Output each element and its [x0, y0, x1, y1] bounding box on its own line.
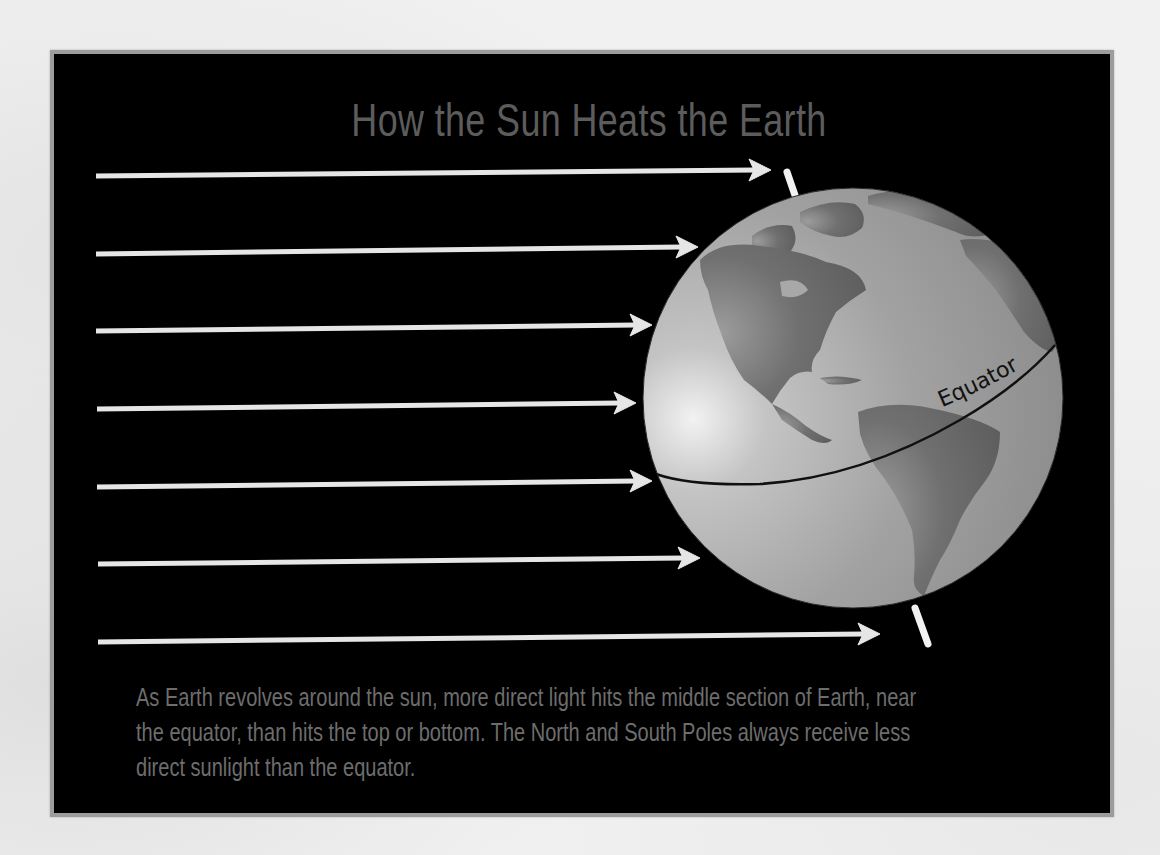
sun-ray-4 — [97, 392, 636, 414]
sun-ray-1 — [96, 159, 771, 181]
earth-globe: Equator — [643, 188, 1063, 608]
sun-ray-6 — [98, 547, 700, 569]
sun-ray-2 — [96, 236, 698, 258]
sun-ray-5 — [97, 470, 652, 492]
caption-line-2: the equator, than hits the top or bottom… — [136, 715, 998, 750]
earth-axis-south — [915, 608, 928, 644]
diagram-caption: As Earth revolves around the sun, more d… — [136, 680, 998, 785]
caption-line-1: As Earth revolves around the sun, more d… — [136, 680, 998, 715]
sun-ray-3 — [96, 314, 652, 336]
sun-ray-7 — [98, 623, 880, 645]
caption-line-3: direct sunlight than the equator. — [136, 750, 998, 785]
diagram-panel: How the Sun Heats the Earth — [50, 50, 1114, 817]
